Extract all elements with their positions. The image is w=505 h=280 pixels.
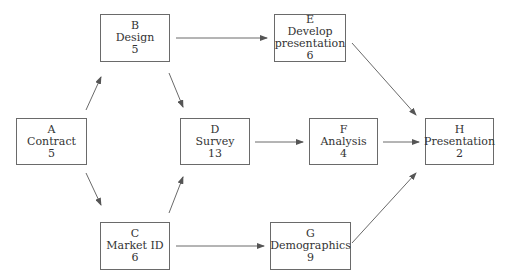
node-d-duration: 13: [208, 148, 222, 160]
node-h-name: Presentation: [424, 136, 495, 148]
edge-c-to-d-arrow: [169, 177, 183, 213]
node-a-id: A: [48, 124, 56, 136]
edge-a-to-b-arrow: [86, 77, 101, 110]
node-g-duration: 9: [307, 252, 314, 264]
edge-e-to-h-arrow: [352, 43, 416, 115]
node-f-duration: 4: [340, 148, 347, 160]
node-e-duration: 6: [307, 50, 314, 62]
node-a-duration: 5: [48, 148, 55, 160]
node-d-id: D: [211, 124, 220, 136]
node-f-id: F: [340, 124, 348, 136]
edge-g-to-h-arrow: [352, 173, 416, 243]
edge-b-to-d-arrow: [169, 73, 183, 107]
node-d: D Survey 13: [180, 118, 250, 165]
node-h-duration: 2: [456, 148, 463, 160]
node-g: G Demographics 9: [270, 222, 351, 270]
network-diagram: A Contract 5 B Design 5 C Market ID 6 D …: [0, 0, 505, 280]
node-f-name: Analysis: [320, 136, 366, 148]
node-d-name: Survey: [196, 136, 235, 148]
node-c-duration: 6: [132, 252, 139, 264]
node-c: C Market ID 6: [100, 222, 170, 270]
node-b-duration: 5: [132, 44, 139, 56]
node-a-name: Contract: [27, 136, 76, 148]
node-f: F Analysis 4: [309, 118, 378, 165]
node-h: H Presentation 2: [425, 118, 494, 165]
edge-a-to-c-arrow: [86, 173, 101, 205]
node-e: E Develop presentation 6: [274, 14, 346, 62]
node-a: A Contract 5: [16, 118, 87, 165]
node-h-id: H: [455, 124, 465, 136]
node-b: B Design 5: [100, 14, 170, 62]
